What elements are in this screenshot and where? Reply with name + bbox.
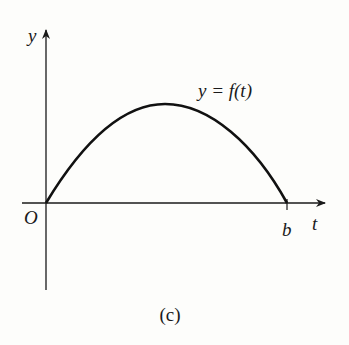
curve-f-of-t [46,104,287,203]
b-label: b [282,219,292,240]
curve-label: y = f(t) [196,80,252,102]
figure-caption: (c) [159,304,180,326]
chart-figure: y t O b y = f(t) (c) [0,0,349,345]
y-axis-label: y [26,25,37,46]
origin-label: O [24,207,38,228]
t-axis-label: t [312,213,318,234]
